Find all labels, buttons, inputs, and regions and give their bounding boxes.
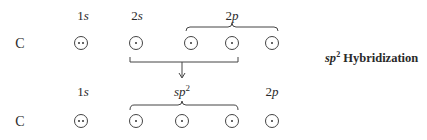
brace-2p-top [186, 23, 278, 31]
electron-dot [271, 120, 273, 122]
label-sub: p [232, 8, 239, 23]
label-2p-after: 2p [266, 85, 279, 98]
orbital-2p-after [265, 114, 279, 128]
label-prefix: sp [174, 84, 186, 99]
title-text: Hybridization [343, 51, 418, 65]
label-sub: s [138, 8, 143, 23]
electron-dot [190, 42, 192, 44]
orbital-sp2-after [129, 114, 143, 128]
label-1s-after: 1s [77, 85, 89, 98]
label-sp2-after: sp2 [174, 84, 190, 98]
electron-dot [78, 42, 80, 44]
orbital-2p-before [265, 36, 279, 50]
electron-dot [231, 42, 233, 44]
electron-dot [82, 42, 84, 44]
orbital-2p-before [225, 36, 239, 50]
label-2s-before: 2s [131, 9, 143, 22]
atom-symbol-before: C [15, 37, 24, 51]
label-superscript: 2 [186, 83, 191, 93]
electron-dot [231, 120, 233, 122]
electron-dot [181, 120, 183, 122]
label-2p-before: 2p [226, 9, 239, 22]
orbital-sp2-after [175, 114, 189, 128]
brace-sp2-bottom [130, 101, 238, 110]
diagram-title: sp2 Hybridization [325, 51, 418, 65]
electron-dot [82, 120, 84, 122]
atom-symbol-after: C [15, 115, 24, 129]
orbital-2s-before [129, 36, 143, 50]
orbital-sp2-after [225, 114, 239, 128]
electron-dot [135, 120, 137, 122]
label-sub: s [84, 8, 89, 23]
electron-dot [78, 120, 80, 122]
label-sub: p [272, 84, 279, 99]
electron-dot [135, 42, 137, 44]
orbital-1s-after [74, 114, 88, 128]
title-superscript: 2 [336, 50, 340, 59]
title-prefix: sp [325, 51, 336, 65]
label-sub: s [84, 84, 89, 99]
hybridization-bracket [130, 57, 238, 62]
label-1s-before: 1s [77, 9, 89, 22]
orbital-2p-before [184, 36, 198, 50]
orbital-1s-before [74, 36, 88, 50]
electron-dot [271, 42, 273, 44]
connector-lines [0, 0, 427, 140]
